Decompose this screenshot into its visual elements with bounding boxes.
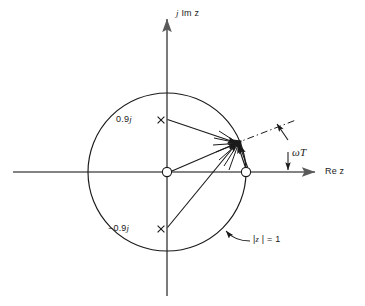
vector-from-unity-zero-secondary: [239, 144, 247, 167]
vector-cluster-strokes: [213, 131, 238, 170]
dash-dot-radial-line: [234, 120, 296, 144]
vector-from-upper-pole: [168, 120, 238, 144]
circle-callout-arrow: [226, 231, 250, 241]
vector-from-lower-pole: [168, 143, 238, 228]
unit-circle-label: |z | = 1: [253, 234, 280, 244]
pole-label-negative: −0.9j: [108, 223, 129, 233]
imaginary-axis-label: j Im z: [176, 8, 199, 18]
figure-z-plane-pole-zero-plot: j Im z Re z 0.9j −0.9j ωT |z | = 1: [0, 0, 365, 306]
real-axis-label: Re z: [325, 166, 344, 176]
angle-arrow-upper: [277, 124, 288, 140]
figure-canvas: [0, 0, 365, 306]
pole-label-positive: 0.9j: [116, 114, 132, 124]
zero-marker-origin: [162, 167, 171, 176]
angle-label-omega-t: ωT: [292, 146, 306, 158]
zero-marker-unity: [241, 167, 250, 176]
pole-marker-upper: [158, 117, 165, 124]
axis-group: [13, 19, 315, 296]
pole-marker-lower: [158, 226, 165, 233]
